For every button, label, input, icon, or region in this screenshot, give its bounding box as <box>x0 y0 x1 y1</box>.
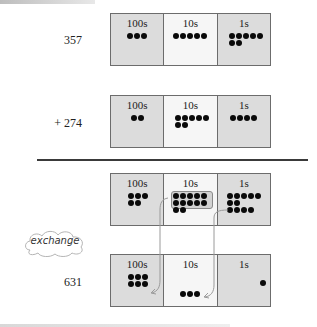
dots-11 <box>218 193 270 213</box>
cell-tens: 10s <box>163 96 216 147</box>
cell-tens: 10s <box>163 174 216 225</box>
exchange-label: exchange <box>22 235 88 246</box>
dots-1 <box>218 280 270 286</box>
dots-2 <box>111 115 163 121</box>
place-value-row-combined: 100s 10s 1s <box>110 173 271 226</box>
dots-5 <box>111 193 163 206</box>
dots-3 <box>111 33 163 39</box>
col-title-tens: 10s <box>164 99 216 111</box>
cell-hundreds: 100s <box>111 174 163 225</box>
col-title-tens: 10s <box>164 17 216 29</box>
place-value-row-631: 100s 10s 1s <box>110 254 271 307</box>
col-title-hundreds: 100s <box>111 258 163 270</box>
cell-tens: 10s <box>163 255 216 306</box>
col-title-hundreds: 100s <box>111 177 163 189</box>
top-crop-strip <box>0 0 95 4</box>
row-label-plus-274: + 274 <box>22 116 82 131</box>
cell-ones: 1s <box>217 96 270 147</box>
col-title-tens: 10s <box>164 177 216 189</box>
col-title-hundreds: 100s <box>111 99 163 111</box>
place-value-row-274: 100s 10s 1s <box>110 95 271 148</box>
col-title-tens: 10s <box>164 258 216 270</box>
cell-tens: 10s <box>163 14 216 65</box>
dots-7 <box>164 115 216 128</box>
col-title-ones: 1s <box>218 99 270 111</box>
dots-7 <box>218 33 270 46</box>
place-value-row-357: 100s 10s 1s <box>110 13 271 66</box>
cell-hundreds: 100s <box>111 255 163 306</box>
col-title-ones: 1s <box>218 17 270 29</box>
cell-hundreds: 100s <box>111 96 163 147</box>
dots-6 <box>111 274 163 287</box>
row-label-631: 631 <box>22 275 82 290</box>
dots-5 <box>164 33 216 39</box>
dots-12 <box>164 193 216 213</box>
cell-hundreds: 100s <box>111 14 163 65</box>
sum-line <box>37 159 308 161</box>
cell-ones: 1s <box>217 174 270 225</box>
col-title-ones: 1s <box>218 258 270 270</box>
cell-ones: 1s <box>217 255 270 306</box>
dots-3 <box>164 291 216 297</box>
cell-ones: 1s <box>217 14 270 65</box>
col-title-ones: 1s <box>218 177 270 189</box>
dots-4 <box>218 115 270 121</box>
col-title-hundreds: 100s <box>111 17 163 29</box>
row-label-357: 357 <box>22 33 82 48</box>
